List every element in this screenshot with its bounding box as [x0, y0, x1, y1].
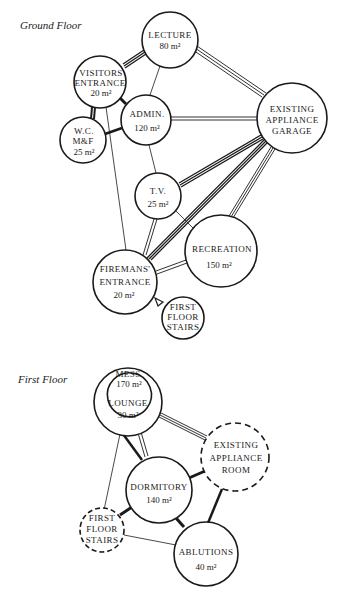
svg-text:FIRST: FIRST — [170, 302, 197, 312]
link-room-ablutions — [208, 489, 222, 523]
svg-text:25 m²: 25 m² — [74, 147, 95, 157]
svg-text:30 m²: 30 m² — [118, 410, 139, 420]
svg-text:W.C.: W.C. — [74, 126, 94, 136]
svg-text:150 m²: 150 m² — [206, 260, 232, 270]
svg-text:DORMITORY: DORMITORY — [130, 482, 188, 492]
link-stairs-ablutions — [124, 535, 176, 545]
node-first-floor-stairs-first: FIRST FLOOR STAIRS — [80, 508, 124, 552]
svg-text:20 m²: 20 m² — [91, 88, 112, 98]
svg-text:120 m²: 120 m² — [134, 123, 160, 133]
node-tv: T.V. 25 m² — [135, 173, 181, 219]
node-existing-appliance-garage: EXISTING APPLIANCE GARAGE — [257, 83, 327, 153]
link-lecture-garage — [193, 46, 266, 97]
svg-text:VISITORS: VISITORS — [79, 68, 123, 78]
link-firemans-recreation — [156, 260, 187, 274]
svg-text:M&F: M&F — [72, 136, 93, 146]
svg-text:40 m²: 40 m² — [196, 562, 217, 572]
svg-text:STAIRS: STAIRS — [167, 322, 200, 332]
svg-text:GARAGE: GARAGE — [272, 126, 312, 136]
link-dormitory-ablutions — [176, 518, 184, 527]
svg-text:ROOM: ROOM — [222, 465, 251, 475]
node-firemans-entrance: FIREMANS' ENTRANCE 20 m² — [93, 250, 157, 314]
link-visitors-wc — [91, 107, 95, 119]
svg-text:RECREATION: RECREATION — [192, 244, 252, 254]
svg-text:FIREMANS': FIREMANS' — [100, 264, 151, 274]
svg-text:ABLUTIONS: ABLUTIONS — [179, 547, 234, 557]
svg-text:FLOOR: FLOOR — [167, 312, 199, 322]
node-lecture: LECTURE 80 m² — [142, 12, 198, 68]
svg-text:EXISTING: EXISTING — [270, 104, 315, 114]
svg-text:T.V.: T.V. — [150, 186, 166, 196]
link-visitors-admin — [120, 98, 126, 104]
link-mess-dormitory-double — [138, 432, 148, 457]
svg-text:20 m²: 20 m² — [114, 290, 135, 300]
svg-text:140 m²: 140 m² — [146, 495, 172, 505]
link-admin-garage — [171, 117, 257, 120]
svg-text:ENTRANCE: ENTRANCE — [74, 78, 125, 88]
link-dormitory-stairs — [120, 507, 132, 515]
svg-text:ENTRANCE: ENTRANCE — [99, 277, 150, 287]
link-dormitory-room — [189, 471, 205, 478]
node-existing-appliance-room: EXISTING APPLIANCE ROOM — [201, 423, 269, 491]
link-tv-garage — [179, 135, 263, 187]
link-firemans-stairs-arrow — [155, 298, 163, 306]
svg-text:80 m²: 80 m² — [160, 41, 181, 51]
node-visitors-entrance: VISITORS ENTRANCE 20 m² — [74, 56, 126, 108]
svg-text:LECTURE: LECTURE — [148, 30, 191, 40]
node-first-floor-stairs-ground: FIRST FLOOR STAIRS — [162, 297, 204, 339]
node-dormitory: DORMITORY 140 m² — [126, 457, 192, 523]
svg-text:LOUNGE: LOUNGE — [108, 398, 147, 408]
link-admin-tv — [149, 145, 156, 173]
link-lecture-visitors — [123, 50, 146, 68]
svg-text:APPLIANCE: APPLIANCE — [209, 453, 262, 463]
node-recreation: RECREATION 150 m² — [185, 215, 257, 287]
svg-text:FLOOR: FLOOR — [86, 524, 118, 534]
svg-text:EXISTING: EXISTING — [214, 440, 259, 450]
svg-text:STAIRS: STAIRS — [86, 535, 119, 545]
node-wc: W.C. M&F 25 m² — [60, 117, 106, 163]
node-ablutions: ABLUTIONS 40 m² — [174, 522, 238, 586]
adjacency-diagram: LECTURE 80 m² VISITORS ENTRANCE 20 m² AD… — [0, 0, 339, 608]
svg-text:APPLIANCE: APPLIANCE — [265, 115, 318, 125]
node-admin: ADMIN. 120 m² — [121, 95, 171, 145]
svg-text:ADMIN.: ADMIN. — [129, 109, 164, 119]
link-wc-admin — [105, 128, 122, 134]
svg-text:25 m²: 25 m² — [148, 199, 169, 209]
link-lecture-admin — [150, 66, 160, 95]
link-mess-stairs — [104, 434, 120, 510]
svg-text:FIRST: FIRST — [89, 513, 116, 523]
link-mess-room — [157, 412, 207, 440]
svg-text:170 m²: 170 m² — [116, 379, 142, 389]
